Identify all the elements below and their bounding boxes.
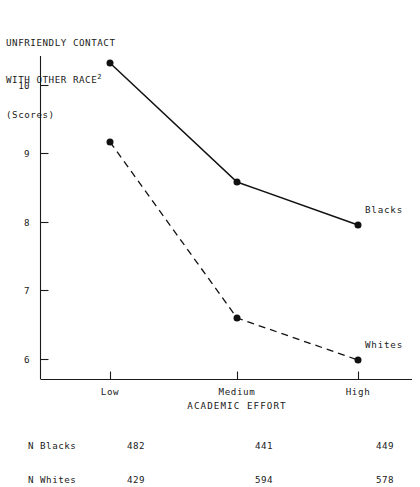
series-line-blacks [110,63,358,225]
n-whites-low: 429 [101,474,145,485]
n-blacks-medium: 441 [229,440,273,451]
data-point-blacks-low [107,60,114,67]
x-tick-label-medium: Medium [202,386,272,397]
y-tick-label-8: 8 [8,217,30,228]
x-axis-ticks [111,372,359,380]
data-point-whites-medium [234,315,241,322]
x-tick-label-low: Low [75,386,145,397]
series-label-whites: Whites [365,339,403,350]
sample-size-table: N Blacks 482 441 449 N Whites 429 594 57… [28,417,64,487]
n-blacks-high: 449 [350,440,394,451]
x-tick-label-high: High [323,386,393,397]
n-row-label-whites: N Whites [28,474,76,485]
data-point-whites-low [107,139,114,146]
n-row-label-blacks: N Blacks [28,440,76,451]
n-whites-high: 578 [350,474,394,485]
y-tick-label-7: 7 [8,285,30,296]
x-axis-title: ACADEMIC EFFORT [152,400,322,411]
data-point-blacks-medium [234,179,241,186]
series-label-blacks: Blacks [365,204,403,215]
data-point-whites-high [355,357,362,364]
table-row: N Whites 429 594 578 [28,474,64,485]
n-whites-medium: 594 [229,474,273,485]
table-row: N Blacks 482 441 449 [28,440,64,451]
data-point-blacks-high [355,222,362,229]
y-tick-label-6: 6 [8,354,30,365]
series-line-whites [110,142,358,360]
n-blacks-low: 482 [101,440,145,451]
y-tick-label-9: 9 [8,148,30,159]
y-tick-label-10: 10 [8,80,30,91]
y-axis-ticks [41,86,49,360]
